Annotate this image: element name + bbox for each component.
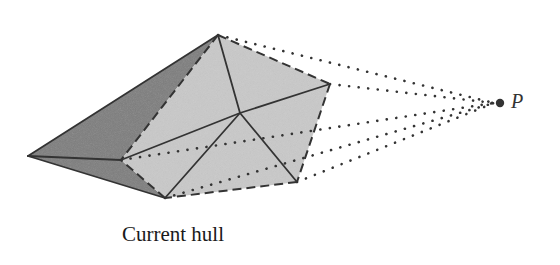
ray-to-p (297, 103, 494, 182)
point-p (496, 99, 504, 107)
ray-to-p (330, 84, 494, 103)
point-p-dot (496, 99, 504, 107)
point-p-label: P (511, 90, 523, 113)
caption: Current hull (0, 222, 346, 247)
